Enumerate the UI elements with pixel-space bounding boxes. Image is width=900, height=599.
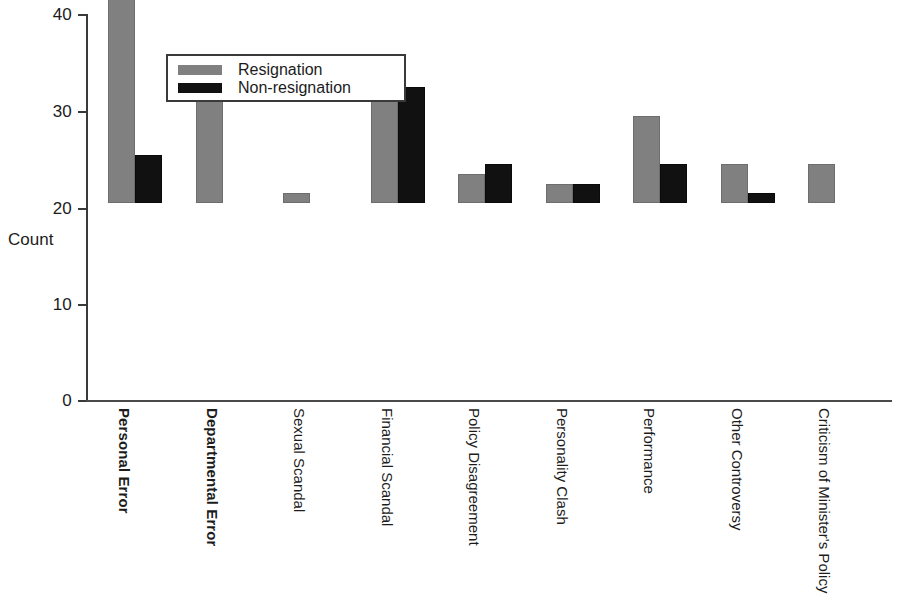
bar-non-resignation-other-controversy	[748, 193, 775, 203]
bar-resignation-performance	[633, 116, 660, 203]
bar-resignation-policy-disagreement	[458, 174, 485, 203]
bar-resignation-personal-error	[108, 0, 135, 203]
bar-non-resignation-personal-error	[135, 155, 162, 203]
chart-legend: Resignation Non-resignation	[166, 54, 406, 102]
bar-resignation-other-controversy	[721, 164, 748, 203]
x-axis-label-personal-error: Personal Error	[115, 408, 133, 598]
bar-non-resignation-performance	[660, 164, 687, 203]
legend-entry-resignation: Resignation	[178, 61, 323, 79]
x-axis-label-personality-clash: Personality Clash	[553, 408, 571, 598]
legend-entry-non-resignation: Non-resignation	[178, 79, 351, 97]
bar-resignation-criticism-of-minister-s-policy	[808, 164, 835, 203]
legend-label-resignation: Resignation	[238, 61, 323, 79]
bar-resignation-personality-clash	[546, 184, 573, 203]
legend-swatch-non-resignation-icon	[178, 83, 222, 93]
x-axis-label-policy-disagreement: Policy Disagreement	[465, 408, 483, 598]
bar-non-resignation-policy-disagreement	[485, 164, 512, 203]
x-axis-label-performance: Performance	[640, 408, 658, 598]
x-axis-label-other-controversy: Other Controversy	[728, 408, 746, 598]
x-axis-label-criticism-of-minister-s-policy: Criticism of Minister's Policy	[815, 408, 833, 598]
bar-non-resignation-personality-clash	[573, 184, 600, 203]
x-axis-label-financial-scandal: Financial Scandal	[378, 408, 396, 598]
x-axis-label-sexual-scandal: Sexual Scandal	[290, 408, 308, 598]
legend-label-non-resignation: Non-resignation	[238, 79, 351, 97]
bar-non-resignation-financial-scandal	[398, 87, 425, 203]
x-axis-label-departmental-error: Departmental Error	[203, 408, 221, 598]
plot-area	[0, 0, 900, 402]
bar-resignation-departmental-error	[196, 87, 223, 203]
legend-swatch-resignation-icon	[178, 65, 222, 75]
bar-chart-figure: 40 30 20 10 0 Count Personal ErrorDepart…	[0, 0, 900, 599]
bar-resignation-sexual-scandal	[283, 193, 310, 203]
